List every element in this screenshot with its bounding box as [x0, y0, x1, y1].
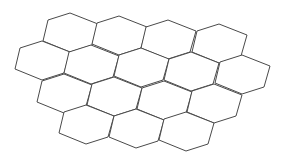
hex-grid-diagram: [0, 0, 282, 159]
hex-grid-svg: [0, 0, 282, 159]
